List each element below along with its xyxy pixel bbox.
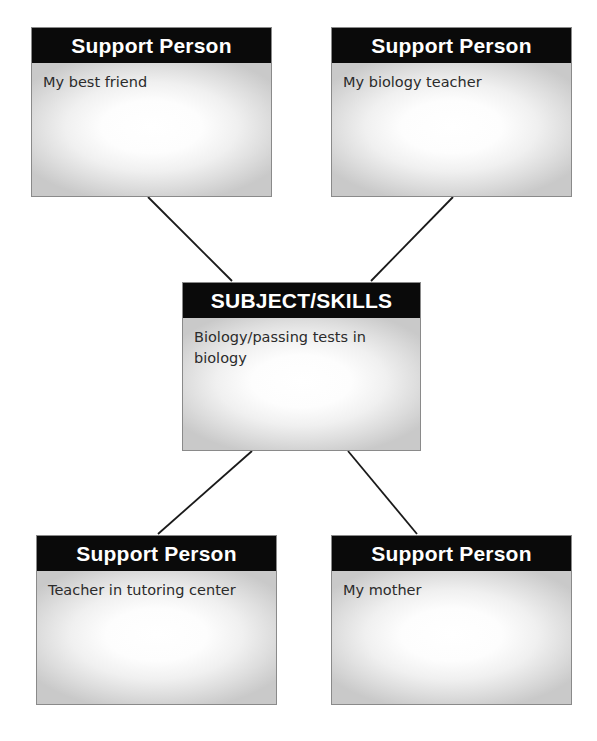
node-header-title: Support Person xyxy=(332,28,571,63)
support-person-node-top-left[interactable]: Support Person My best friend xyxy=(31,27,272,197)
node-body: My best friend xyxy=(32,63,271,196)
support-person-node-bottom-right[interactable]: Support Person My mother xyxy=(331,535,572,705)
node-body-text: Teacher in tutoring center xyxy=(48,580,265,601)
node-body-text: Biology/passing tests in biology xyxy=(194,327,409,369)
node-header-title: SUBJECT/SKILLS xyxy=(183,283,420,318)
diagram-canvas: Support Person My best friend Support Pe… xyxy=(0,0,597,741)
node-header-title: Support Person xyxy=(37,536,276,571)
node-body-text: My mother xyxy=(343,580,560,601)
support-person-node-bottom-left[interactable]: Support Person Teacher in tutoring cente… xyxy=(36,535,277,705)
node-body: Biology/passing tests in biology xyxy=(183,318,420,450)
subject-skills-node-center[interactable]: SUBJECT/SKILLS Biology/passing tests in … xyxy=(182,282,421,451)
node-body-text: My biology teacher xyxy=(343,72,560,93)
node-body: Teacher in tutoring center xyxy=(37,571,276,704)
node-header-title: Support Person xyxy=(32,28,271,63)
node-body: My biology teacher xyxy=(332,63,571,196)
node-header-title: Support Person xyxy=(332,536,571,571)
connector-center-to-top-left xyxy=(148,197,232,281)
node-body-text: My best friend xyxy=(43,72,260,93)
connector-center-to-top-right xyxy=(371,197,453,281)
connector-center-to-bottom-right xyxy=(348,451,417,534)
support-person-node-top-right[interactable]: Support Person My biology teacher xyxy=(331,27,572,197)
node-body: My mother xyxy=(332,571,571,704)
connector-center-to-bottom-left xyxy=(158,451,252,534)
